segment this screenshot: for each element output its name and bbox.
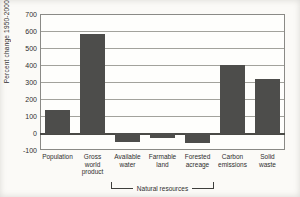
y-tick-label: 400: [10, 62, 37, 69]
gridline-500: [41, 48, 284, 49]
bar-available-water: [115, 133, 140, 142]
bar-chart: Percent change 1950-2000 700600500400300…: [0, 0, 300, 197]
bar-population: [45, 110, 70, 134]
y-tick-label: 600: [10, 28, 37, 35]
bar-gross-world-product: [80, 34, 105, 134]
y-axis-label: Percent change 1950-2000: [3, 0, 10, 83]
gridline-400: [41, 65, 284, 66]
gridline-300: [41, 82, 284, 83]
y-tick-label: 100: [10, 113, 37, 120]
y-tick-label: 200: [10, 96, 37, 103]
gridline-100: [41, 116, 284, 117]
bar-forested-acreage: [185, 133, 210, 143]
bar-carbon-emissions: [220, 65, 245, 134]
bracket-label: Natural resources: [137, 185, 188, 192]
y-tick-label: -100: [10, 147, 37, 154]
y-tick-label: 700: [10, 11, 37, 18]
gridline-200: [41, 99, 284, 100]
category-label-solid-waste: Solidwaste: [247, 153, 288, 168]
gridline-600: [41, 31, 284, 32]
bar-solid-waste: [255, 79, 280, 134]
y-tick-label: 0: [10, 130, 37, 137]
bracket-hline: [112, 188, 133, 189]
bracket-hline: [192, 188, 213, 189]
y-tick-label: 300: [10, 79, 37, 86]
y-tick-label: 500: [10, 45, 37, 52]
bracket-stub: [213, 182, 214, 189]
bar-farmable-land: [150, 133, 175, 138]
natural-resources-bracket: Natural resources: [111, 181, 214, 189]
